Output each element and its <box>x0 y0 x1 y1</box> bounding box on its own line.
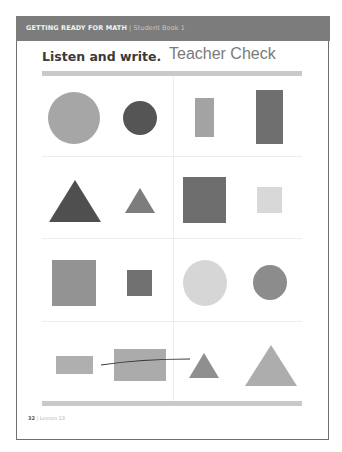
lesson-label: Lesson 13 <box>40 415 65 421</box>
pen-mark <box>0 0 342 452</box>
page-number: 32 <box>28 415 35 421</box>
page-footer: 32 | Lesson 13 <box>28 415 65 421</box>
